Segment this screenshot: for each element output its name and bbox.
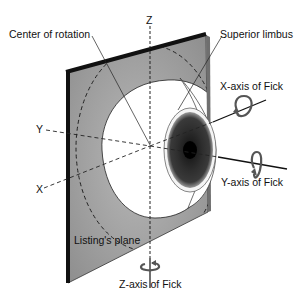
label-x: X	[36, 183, 43, 195]
pupil	[183, 141, 197, 159]
label-superior-limbus: Superior limbus	[220, 28, 293, 40]
label-y-axis-of-fick: Y-axis of Fick	[221, 176, 284, 188]
label-listings-plane: Listing's plane	[74, 234, 140, 246]
fick-axes-diagram: Center of rotation Superior limbus X-axi…	[0, 0, 301, 301]
label-z-axis-of-fick: Z-axis of Fick	[119, 278, 182, 290]
label-z: Z	[146, 14, 153, 26]
label-center-of-rotation: Center of rotation	[9, 28, 90, 40]
label-y: Y	[36, 123, 43, 135]
label-x-axis-of-fick: X-axis of Fick	[220, 80, 284, 92]
x-rotation-arrow-icon	[233, 96, 252, 116]
